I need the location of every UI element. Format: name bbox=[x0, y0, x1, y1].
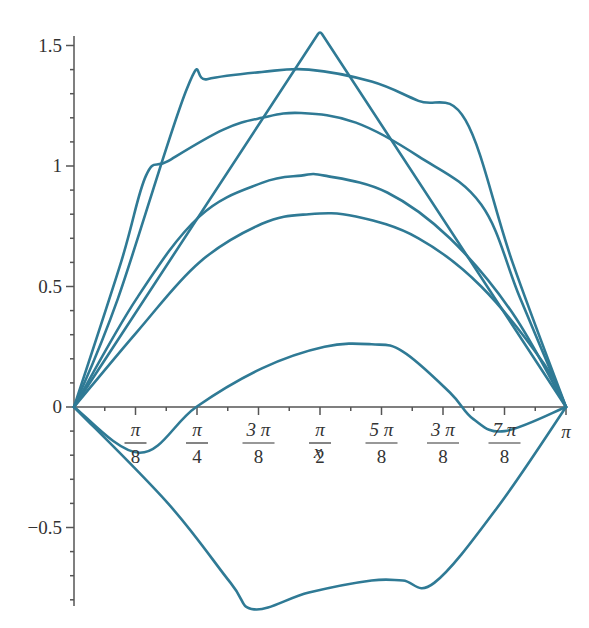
tick-labels: 1.510.50−0.5π8π43 π8π25 π83 π87 π8π bbox=[28, 35, 572, 538]
chart-canvas: 1.510.50−0.5π8π43 π8π25 π83 π87 π8π x bbox=[0, 0, 589, 628]
x-tick-denominator: 8 bbox=[377, 446, 387, 467]
axes bbox=[66, 36, 566, 606]
x-tick-numerator: π bbox=[131, 419, 141, 440]
y-tick-label: 0.5 bbox=[38, 276, 62, 297]
curve-flat-top bbox=[74, 69, 566, 407]
curve-arc-0.80 bbox=[74, 213, 566, 407]
x-tick-denominator: 8 bbox=[254, 446, 264, 467]
x-tick-label: π bbox=[561, 421, 571, 442]
y-tick-label: 0 bbox=[53, 396, 63, 417]
curves bbox=[74, 33, 566, 610]
x-tick-denominator: 8 bbox=[500, 446, 510, 467]
x-tick-numerator: 7 π bbox=[493, 419, 517, 440]
x-tick-numerator: 5 π bbox=[370, 419, 394, 440]
x-tick-numerator: 3 π bbox=[246, 419, 271, 440]
x-tick-denominator: 8 bbox=[438, 446, 448, 467]
x-axis-label: x bbox=[313, 441, 323, 462]
curve-knee-curve bbox=[74, 113, 566, 407]
x-tick-numerator: 3 π bbox=[430, 419, 455, 440]
curve-triangle bbox=[74, 33, 566, 407]
x-tick-numerator: π bbox=[192, 419, 202, 440]
x-tick-denominator: 4 bbox=[192, 446, 202, 467]
y-tick-label: 1 bbox=[53, 155, 63, 176]
x-tick-numerator: π bbox=[315, 419, 325, 440]
x-tick-denominator: 8 bbox=[131, 446, 141, 467]
y-tick-label: 1.5 bbox=[38, 35, 62, 56]
y-tick-label: −0.5 bbox=[28, 517, 62, 538]
